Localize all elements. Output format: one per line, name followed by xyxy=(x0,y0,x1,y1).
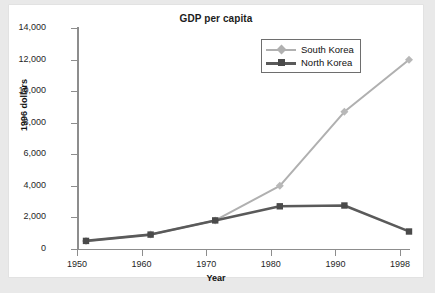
diamond-marker-icon xyxy=(340,108,348,116)
y-axis-tick xyxy=(71,186,77,187)
chart-title: GDP per capita xyxy=(9,13,423,24)
x-axis-tick-label: 1998 xyxy=(380,259,420,269)
x-axis-tick xyxy=(206,250,207,256)
x-axis-tick xyxy=(400,250,401,256)
y-axis-tick xyxy=(71,123,77,124)
diamond-marker-icon xyxy=(82,237,90,245)
square-marker-icon xyxy=(278,59,285,66)
x-axis-tick-label: 1960 xyxy=(122,259,162,269)
x-axis-tick-label: 1970 xyxy=(186,259,226,269)
x-axis-tick xyxy=(142,250,143,256)
x-axis-tick xyxy=(271,250,272,256)
x-axis-tick-label: 1950 xyxy=(57,259,97,269)
square-marker-icon xyxy=(83,238,89,244)
x-axis-tick-label: 1990 xyxy=(315,259,355,269)
legend-label-north-korea: North Korea xyxy=(301,57,352,68)
x-axis-tick xyxy=(77,250,78,256)
square-marker-icon xyxy=(406,228,412,234)
chart-legend: South Korea North Korea xyxy=(261,39,361,73)
chart-panel: GDP per capita 1996 dollars Year 02,0004… xyxy=(9,5,423,277)
figure-background: GDP per capita 1996 dollars Year 02,0004… xyxy=(0,0,435,293)
y-axis-tick-label: 4,000 xyxy=(23,180,46,190)
x-axis-line xyxy=(77,249,410,251)
square-marker-icon xyxy=(212,217,218,223)
y-axis-tick xyxy=(71,60,77,61)
diamond-marker-icon xyxy=(211,216,219,224)
y-axis-label: 1996 dollars xyxy=(19,60,29,150)
y-axis-tick xyxy=(71,28,77,29)
y-axis-tick-label: 2,000 xyxy=(23,211,46,221)
series-line-south-korea xyxy=(86,60,409,241)
legend-swatch-north-korea xyxy=(266,57,296,68)
series-line-north-korea xyxy=(86,206,409,241)
diamond-marker-icon xyxy=(276,182,284,190)
y-axis-tick xyxy=(71,154,77,155)
y-axis-tick-label: 12,000 xyxy=(18,54,46,64)
x-axis-tick xyxy=(335,250,336,256)
x-axis-tick-label: 1980 xyxy=(251,259,291,269)
diamond-marker-icon xyxy=(147,231,155,239)
diamond-marker-icon xyxy=(277,45,287,55)
square-marker-icon xyxy=(147,231,153,237)
x-axis-label: Year xyxy=(9,273,423,283)
square-marker-icon xyxy=(277,203,283,209)
y-axis-tick xyxy=(71,217,77,218)
y-axis-tick-label: 14,000 xyxy=(18,22,46,32)
y-axis-tick-label: 6,000 xyxy=(23,148,46,158)
diamond-marker-icon xyxy=(405,56,413,64)
square-marker-icon xyxy=(341,202,347,208)
y-axis-tick-label: 8,000 xyxy=(23,117,46,127)
y-axis-tick-label: 10,000 xyxy=(18,85,46,95)
y-axis-line xyxy=(77,27,79,250)
legend-entry-south-korea: South Korea xyxy=(266,43,354,56)
legend-swatch-south-korea xyxy=(266,44,296,55)
y-axis-tick-label: 0 xyxy=(41,243,46,253)
legend-label-south-korea: South Korea xyxy=(301,44,354,55)
legend-entry-north-korea: North Korea xyxy=(266,56,354,69)
y-axis-tick xyxy=(71,91,77,92)
